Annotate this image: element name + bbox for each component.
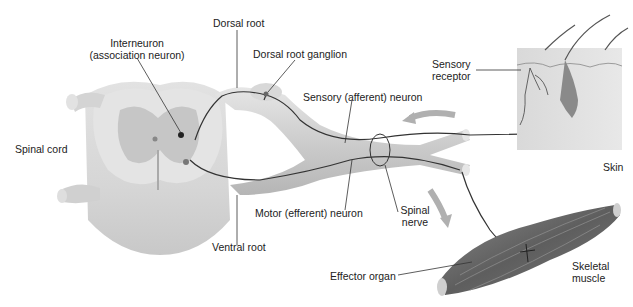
label-spinal-nerve: Spinal nerve xyxy=(398,204,432,228)
efferent-direction-arrow xyxy=(430,190,445,218)
label-dorsal-root: Dorsal root xyxy=(213,17,264,29)
motor-neuron-cell-body xyxy=(183,159,189,165)
label-dorsal-root-ganglion: Dorsal root ganglion xyxy=(253,48,347,60)
label-skin: Skin xyxy=(603,161,623,173)
afferent-direction-arrow xyxy=(410,113,455,118)
label-effector-organ: Effector organ xyxy=(330,270,396,282)
spinal-cord xyxy=(57,82,230,255)
label-sensory-neuron: Sensory (afferent) neuron xyxy=(303,91,422,103)
label-sensory-receptor: Sensory receptor xyxy=(432,58,471,82)
skin-block xyxy=(517,15,628,150)
label-ventral-root: Ventral root xyxy=(212,241,266,253)
ganglion-cell-body xyxy=(264,92,269,97)
label-interneuron: Interneuron (association neuron) xyxy=(82,37,192,61)
label-skeletal-muscle: Skeletal muscle xyxy=(572,260,609,284)
label-spinal-cord: Spinal cord xyxy=(15,143,68,155)
label-motor-neuron: Motor (efferent) neuron xyxy=(255,207,363,219)
